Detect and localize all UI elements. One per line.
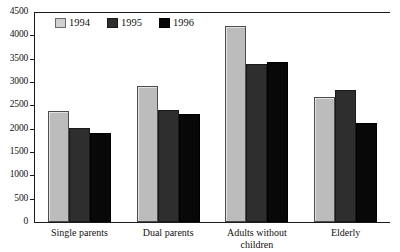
y-tick-label: 2500 [10,101,28,111]
bar-1996 [356,123,377,222]
x-axis-line [34,222,390,223]
bar-1994 [48,111,69,222]
legend-item-1996: 1996 [159,17,194,28]
x-axis-label: Elderly [301,225,390,252]
legend-label-1994: 1994 [69,17,90,28]
legend-item-1994: 1994 [55,17,90,28]
bar-1995 [69,128,90,222]
y-tick-label: 3000 [10,77,28,87]
legend-swatch-1996-icon [159,18,170,28]
bar-1995 [246,64,267,222]
bar-1994 [314,97,335,222]
bar-group [35,12,124,222]
x-axis-label: Adults without children [213,225,302,252]
bar-1996 [267,62,288,222]
chart-legend: 1994 1995 1996 [55,17,194,28]
x-axis-label: Dual parents [124,225,213,252]
bar-1994 [225,26,246,222]
legend-item-1995: 1995 [107,17,142,28]
bar-1995 [158,110,179,222]
bar-groups [35,12,390,222]
x-axis-label: Single parents [35,225,124,252]
legend-label-1996: 1996 [173,17,194,28]
bar-1996 [179,114,200,222]
y-tick-label: 1500 [10,147,28,157]
bar-1995 [335,90,356,222]
y-tick-label: 4500 [10,7,28,17]
bar-chart: 050010001500200025003000350040004500 Sin… [0,0,400,252]
y-tick-label: 4000 [10,31,28,41]
legend-swatch-1994-icon [55,18,66,28]
bar-group [124,12,213,222]
legend-swatch-1995-icon [107,18,118,28]
y-tick-label: 2000 [10,124,28,134]
y-tick-label: 0 [23,217,28,227]
legend-label-1995: 1995 [121,17,142,28]
y-tick-label: 1000 [10,171,28,181]
y-axis: 050010001500200025003000350040004500 [0,0,34,252]
bar-1996 [90,133,111,222]
y-tick-label: 500 [14,194,28,204]
bar-1994 [137,86,158,222]
x-axis-labels: Single parentsDual parentsAdults without… [35,225,390,252]
bar-group [213,12,302,222]
y-tick-label: 3500 [10,54,28,64]
bar-group [301,12,390,222]
